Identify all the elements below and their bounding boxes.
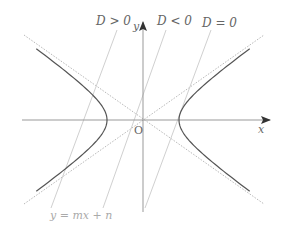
- label-line-equation: y = mx + n: [49, 209, 112, 222]
- label-x-axis: x: [258, 123, 265, 136]
- line-d-negative: [103, 30, 166, 208]
- label-origin: O: [134, 124, 143, 137]
- label-d-positive: D > 0: [95, 14, 131, 28]
- line-d-zero: [145, 30, 211, 208]
- label-d-zero: D = 0: [201, 16, 237, 30]
- hyperbola-diagram: D > 0 y D < 0 D = 0 O x y = mx + n: [0, 0, 284, 236]
- label-y-axis: y: [132, 20, 140, 33]
- label-d-negative: D < 0: [156, 14, 192, 28]
